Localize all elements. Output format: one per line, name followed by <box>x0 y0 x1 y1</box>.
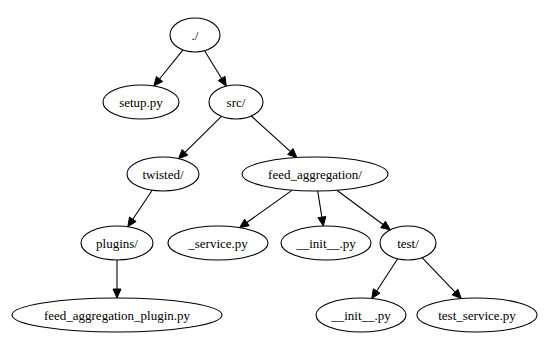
node-label: _service.py <box>187 236 248 251</box>
edge-line <box>422 258 455 292</box>
edge-root-to-setup <box>154 50 183 86</box>
node-init_a: __init__.py <box>281 226 371 260</box>
edge-src-to-feed_aggregation <box>251 116 297 158</box>
node-src: src/ <box>209 85 263 119</box>
node-test_service: test_service.py <box>417 298 537 332</box>
edge-src-to-twisted <box>179 116 222 158</box>
edge-root-to-src <box>205 51 227 86</box>
edge-twisted-to-plugins <box>128 190 152 227</box>
edge-plugins-to-plugin_py <box>113 260 121 298</box>
edge-feed_aggregation-to-init_a <box>318 191 326 226</box>
edge-line <box>251 116 290 151</box>
arrowhead-icon <box>154 76 163 86</box>
arrowhead-icon <box>218 76 226 86</box>
node-label: test/ <box>397 236 419 251</box>
edge-line <box>185 116 222 152</box>
edge-test-to-test_service <box>422 258 461 299</box>
node-test: test/ <box>380 226 436 260</box>
edge-line <box>133 190 152 219</box>
node-label: __init__.py <box>330 308 391 323</box>
node-twisted: twisted/ <box>127 157 199 191</box>
node-init_b: __init__.py <box>316 298 406 332</box>
node-label: test_service.py <box>438 308 516 323</box>
edge-line <box>160 50 183 79</box>
arrowhead-icon <box>372 289 380 299</box>
node-label: ./ <box>192 28 199 43</box>
node-label: feed_aggregation/ <box>268 167 362 182</box>
node-service: _service.py <box>168 226 268 260</box>
directory-tree-diagram: ./setup.pysrc/twisted/feed_aggregation/p… <box>0 0 560 350</box>
edge-line <box>337 190 383 224</box>
edge-test-to-init_b <box>372 259 398 299</box>
arrowhead-icon <box>113 289 121 298</box>
node-label: feed_aggregation_plugin.py <box>44 308 191 323</box>
node-setup: setup.py <box>103 85 179 119</box>
node-label: twisted/ <box>142 167 184 182</box>
edge-feed_aggregation-to-service <box>240 190 293 228</box>
node-label: setup.py <box>119 95 163 110</box>
arrowhead-icon <box>128 217 136 227</box>
edge-line <box>377 259 398 291</box>
arrowhead-icon <box>381 221 391 230</box>
edge-line <box>205 51 222 79</box>
node-plugins: plugins/ <box>81 226 153 260</box>
node-plugin_py: feed_aggregation_plugin.py <box>12 298 222 332</box>
arrowhead-icon <box>318 217 326 227</box>
node-label: plugins/ <box>96 236 138 251</box>
edge-line <box>318 191 322 217</box>
edge-line <box>247 190 292 222</box>
nodes-layer: ./setup.pysrc/twisted/feed_aggregation/p… <box>12 18 537 332</box>
node-label: src/ <box>227 95 246 110</box>
node-root: ./ <box>170 18 220 52</box>
node-label: __init__.py <box>295 236 356 251</box>
edge-feed_aggregation-to-test <box>337 190 390 230</box>
node-feed_aggregation: feed_aggregation/ <box>242 157 388 191</box>
arrowhead-icon <box>240 219 250 227</box>
